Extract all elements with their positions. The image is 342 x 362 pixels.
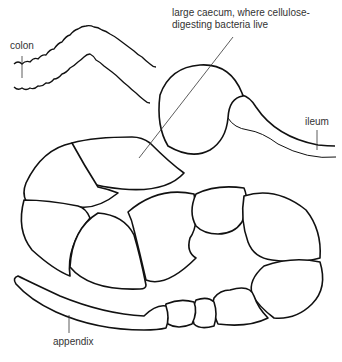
- caecum-segment: [192, 187, 247, 234]
- caecum-label-line-2: digesting bacteria live: [172, 19, 268, 31]
- colon-label: colon: [10, 40, 34, 52]
- ileum-label: ileum: [305, 116, 329, 128]
- caecum-segment: [164, 300, 195, 327]
- colon-lower-edge: [14, 54, 150, 103]
- caecum-segment: [251, 260, 322, 318]
- appendix-label: appendix: [53, 336, 94, 348]
- colon-upper-edge: [14, 26, 156, 67]
- caecum-segment: [243, 193, 321, 262]
- caecum-diagram: [0, 0, 342, 362]
- caecum-label-line-1: large caecum, where cellulose-: [172, 7, 310, 19]
